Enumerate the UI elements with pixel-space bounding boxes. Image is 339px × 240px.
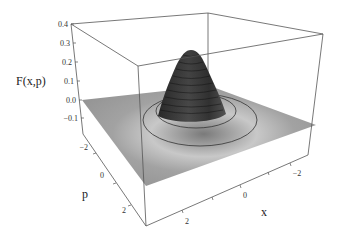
- z-tick-neg0.1: −0.1: [63, 114, 78, 123]
- p-tick-0: 0: [100, 171, 104, 180]
- z-axis: 0.4 0.3 0.2 0.1 0.0 −0.1 F(x,p): [16, 20, 84, 123]
- x-tick-neg2: −2: [293, 169, 302, 178]
- p-tick-neg2: −2: [79, 143, 88, 152]
- x-tick-2: 2: [185, 217, 189, 226]
- z-tick-0.1: 0.1: [64, 77, 74, 86]
- z-axis-label: F(x,p): [16, 74, 46, 88]
- x-tick-0: 0: [243, 191, 247, 200]
- z-tick-0.3: 0.3: [60, 39, 70, 48]
- p-tick-2: 2: [122, 206, 126, 215]
- z-tick-0.4: 0.4: [58, 20, 68, 29]
- z-tick-0.0: 0.0: [66, 96, 76, 105]
- x-axis: 2 0 −2 x: [182, 163, 301, 226]
- z-tick-0.2: 0.2: [62, 58, 72, 67]
- surface-plot: 0.4 0.3 0.2 0.1 0.0 −0.1 F(x,p) −2 0 2 p…: [0, 0, 339, 240]
- x-axis-label: x: [261, 205, 267, 219]
- p-axis-label: p: [82, 187, 88, 201]
